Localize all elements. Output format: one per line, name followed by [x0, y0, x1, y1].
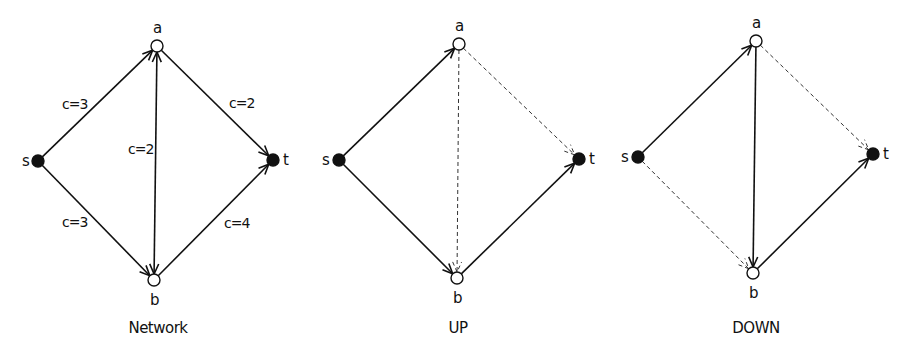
capacity-label-a-t: c=2 — [229, 95, 254, 111]
capacity-label-s-a: c=3 — [62, 96, 87, 112]
inner-node-icon — [453, 38, 465, 50]
node-s: s — [22, 152, 44, 170]
edge-s-a — [642, 45, 751, 153]
panel-down: sabtDOWN — [621, 14, 889, 337]
edge-a-b — [749, 47, 758, 267]
edge-a-t — [463, 48, 574, 155]
edge-line-s-a — [343, 48, 454, 156]
node-a: a — [453, 17, 465, 50]
node-label-s: s — [621, 148, 629, 166]
node-label-b: b — [749, 284, 759, 302]
edge-line-a-b — [753, 47, 756, 267]
node-label-a: a — [455, 17, 464, 35]
node-t: t — [573, 150, 595, 168]
edge-a-b — [453, 50, 462, 272]
node-label-s: s — [322, 151, 330, 169]
edge-b-t — [461, 163, 574, 274]
node-s: s — [322, 151, 345, 169]
inner-node-icon — [750, 35, 762, 47]
edge-line-b-t — [461, 163, 574, 274]
node-s: s — [621, 148, 644, 166]
node-b: b — [747, 267, 759, 302]
node-b: b — [451, 272, 463, 307]
edge-s-b: c=3 — [42, 165, 150, 275]
terminal-node-icon — [32, 155, 44, 167]
node-a: a — [750, 14, 762, 47]
edge-line-s-b — [343, 164, 453, 274]
node-label-a: a — [752, 14, 761, 32]
inner-node-icon — [148, 274, 160, 286]
flow-network-diagram: c=3c=3c=2c=4c=2sabtNetwork sabtUP sabtDO… — [0, 0, 914, 359]
edge-line-b-t — [158, 164, 269, 275]
edge-line-a-t — [760, 45, 868, 150]
edge-a-t — [760, 45, 868, 150]
terminal-node-icon — [867, 148, 879, 160]
node-label-t: t — [883, 145, 889, 163]
panel-up: sabtUP — [322, 17, 595, 337]
capacity-label-a-b: c=2 — [128, 141, 153, 157]
terminal-node-icon — [632, 151, 644, 163]
edge-line-a-t — [463, 48, 574, 155]
edge-a-t: c=2 — [161, 50, 268, 156]
inner-node-icon — [451, 272, 463, 284]
caption-up: UP — [448, 319, 467, 337]
edge-line-s-a — [642, 45, 751, 153]
node-label-b: b — [150, 291, 160, 309]
node-label-b: b — [453, 289, 463, 307]
edge-line-s-b — [642, 161, 749, 268]
edge-s-a — [343, 48, 454, 156]
node-t: t — [267, 151, 289, 169]
terminal-node-icon — [333, 154, 345, 166]
capacity-label-s-b: c=3 — [62, 214, 87, 230]
edge-s-b — [642, 161, 749, 268]
caption-down: DOWN — [732, 319, 779, 337]
caption-network: Network — [128, 319, 188, 337]
terminal-node-icon — [267, 154, 279, 166]
edge-b-t — [757, 158, 868, 269]
edge-line-a-b — [154, 52, 157, 274]
node-a: a — [151, 19, 163, 52]
edge-b-t: c=4 — [158, 164, 269, 275]
node-b: b — [148, 274, 160, 309]
edge-a-b: c=2 — [128, 52, 161, 274]
edge-line-a-b — [457, 50, 459, 272]
inner-node-icon — [151, 40, 163, 52]
node-t: t — [867, 145, 889, 163]
edge-line-b-t — [757, 158, 868, 269]
node-label-t: t — [283, 151, 289, 169]
capacity-label-b-t: c=4 — [224, 215, 250, 231]
panel-network: c=3c=3c=2c=4c=2sabtNetwork — [22, 19, 289, 337]
node-label-t: t — [589, 150, 595, 168]
edge-s-b — [343, 164, 453, 274]
node-label-s: s — [22, 152, 30, 170]
inner-node-icon — [747, 267, 759, 279]
edge-line-s-b — [42, 165, 150, 275]
terminal-node-icon — [573, 153, 585, 165]
node-label-a: a — [153, 19, 162, 37]
